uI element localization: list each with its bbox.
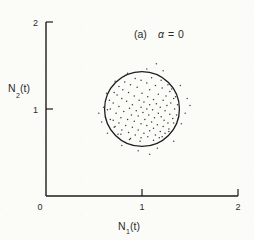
scatter-point	[144, 119, 146, 121]
scatter-point	[152, 109, 154, 111]
scatter-point	[138, 100, 140, 102]
plot-canvas: 2 1 0 1 2 N 2 (t) N 1 (t) (a) α = 0	[0, 0, 254, 240]
scatter-point	[140, 123, 142, 125]
scatter-point	[170, 102, 172, 104]
axis-ticks	[46, 22, 238, 196]
scatter-point	[125, 125, 127, 127]
y-axis-title-tail: (t)	[20, 82, 30, 94]
scatter-point	[127, 119, 129, 121]
scatter-point	[163, 120, 165, 122]
scatter-point	[151, 121, 153, 123]
scatter-point	[154, 117, 156, 119]
scatter-point	[148, 114, 150, 116]
scatter-point	[126, 100, 128, 102]
y-axis-title: N 2 (t)	[8, 82, 30, 99]
boundary-circle	[105, 72, 180, 147]
scatter-point	[146, 68, 148, 70]
scatter-point	[136, 87, 138, 89]
scatter-point	[164, 110, 166, 112]
scatter-point	[110, 119, 112, 121]
scatter-point	[143, 133, 145, 135]
scatter-point	[168, 131, 170, 133]
scatter-point	[140, 107, 142, 109]
scatter-point	[167, 122, 169, 124]
scatter-point	[162, 100, 164, 102]
scatter-point	[149, 153, 151, 155]
scatter-point	[160, 80, 162, 82]
scatter-point	[161, 136, 163, 138]
scatter-point	[162, 126, 164, 128]
scatter-point	[117, 133, 119, 135]
scatter-point	[149, 89, 151, 91]
scatter-point	[113, 127, 115, 128]
x-axis-title: N 1 (t)	[118, 220, 140, 235]
scatter-point	[137, 150, 139, 152]
scatter-point	[134, 120, 136, 122]
scatter-point	[155, 85, 157, 87]
scatter-point	[153, 140, 155, 142]
scatter-point	[164, 133, 166, 135]
scatter-point	[101, 121, 103, 123]
alpha-value: 0	[178, 28, 184, 40]
scatter-point	[130, 84, 132, 86]
scatter-point	[121, 98, 123, 100]
scatter-point	[98, 113, 100, 115]
scatter-point	[118, 122, 120, 124]
y-axis-title-main: N	[8, 82, 16, 94]
alpha-equals: =	[168, 28, 174, 40]
boundary-circle-layer	[105, 72, 180, 147]
scatter-point	[146, 125, 148, 127]
scatter-point	[189, 105, 191, 107]
scatter-point	[140, 80, 142, 82]
scatter-point	[132, 127, 134, 128]
scatter-point	[168, 128, 170, 130]
scatter-point	[140, 137, 142, 139]
scatter-point	[118, 106, 120, 108]
scatter-point	[137, 129, 139, 131]
scatter-point	[146, 82, 148, 84]
scatter-point	[157, 147, 159, 149]
scatter-point	[156, 103, 158, 105]
scatter-point	[124, 81, 126, 83]
x-tick-label-1: 1	[139, 202, 144, 212]
scatter-point	[153, 127, 155, 129]
scatter-point	[139, 140, 141, 142]
scatter-point	[159, 131, 161, 133]
x-axis-title-main: N	[118, 220, 126, 232]
scatter-point	[180, 85, 182, 87]
scatter-point	[184, 113, 186, 115]
scatter-point	[174, 108, 176, 110]
scatter-point	[121, 129, 123, 131]
scatter-point	[121, 145, 123, 147]
scatter-point	[113, 92, 115, 94]
scatter-point	[155, 134, 157, 136]
scatter-point	[107, 133, 109, 135]
scatter-point	[147, 96, 149, 98]
scatter-point	[158, 93, 160, 95]
scatter-point	[159, 137, 161, 139]
scatter-point	[128, 132, 130, 134]
scatter-points-layer	[98, 63, 191, 155]
scatter-point	[112, 120, 114, 122]
scatter-point	[167, 84, 169, 86]
scatter-point	[123, 111, 125, 113]
scatter-point	[153, 99, 155, 101]
scatter-point	[186, 98, 188, 100]
x-tick-label-2: 2	[235, 202, 240, 212]
scatter-point	[135, 134, 137, 136]
scatter-point	[142, 112, 144, 114]
scatter-point	[110, 108, 112, 110]
scatter-point	[173, 140, 175, 142]
scatter-point	[156, 63, 158, 64]
scatter-point	[161, 87, 163, 89]
panel-annotation: (a) α = 0	[134, 28, 184, 40]
scatter-point	[171, 88, 173, 90]
scatter-point	[134, 95, 136, 97]
axis-lines	[46, 22, 238, 196]
scatter-point	[132, 104, 134, 106]
y-tick-label-1: 1	[33, 105, 38, 115]
scatter-point	[173, 122, 175, 124]
scatter-point	[181, 123, 183, 125]
scatter-point	[157, 124, 159, 126]
alpha-symbol: α	[158, 28, 165, 40]
